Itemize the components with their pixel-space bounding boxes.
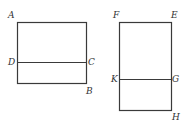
label-f: F <box>112 10 120 20</box>
label-a: A <box>7 10 15 20</box>
label-k: K <box>110 74 119 84</box>
label-h: H <box>171 112 180 122</box>
figure-right: F E K G H <box>110 10 180 122</box>
label-d: D <box>7 57 15 67</box>
geometry-diagram: A D C B F E K G H <box>0 0 186 124</box>
figure-left: A D C B <box>7 10 95 96</box>
label-c: C <box>88 57 95 67</box>
rectangle-right <box>120 23 172 111</box>
rectangle-left <box>18 23 87 84</box>
label-g: G <box>172 74 179 84</box>
label-b: B <box>85 86 93 96</box>
label-e: E <box>170 10 178 20</box>
